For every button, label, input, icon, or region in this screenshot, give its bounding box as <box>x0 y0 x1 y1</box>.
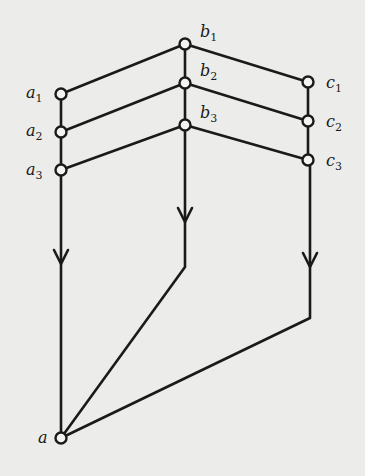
edge-a2-b2 <box>61 83 185 132</box>
edge-b3-c3 <box>185 125 308 160</box>
node-a1 <box>56 89 67 100</box>
middle-flow-line <box>61 125 185 438</box>
label-a2: a2 <box>26 121 43 143</box>
node-b1 <box>180 39 191 50</box>
label-a: a <box>38 428 48 447</box>
label-a1: a1 <box>26 83 43 105</box>
node-a2 <box>56 127 67 138</box>
node-c3 <box>303 155 314 166</box>
edge-a1-b1 <box>61 44 185 94</box>
node-c2 <box>303 116 314 127</box>
label-c1: c1 <box>326 73 342 95</box>
node-a <box>56 433 67 444</box>
label-b2: b2 <box>200 61 217 83</box>
node-b2 <box>180 78 191 89</box>
label-b3: b3 <box>200 103 217 125</box>
label-a3: a3 <box>26 160 43 182</box>
flow-diagram: b1 b2 b3 a1 a2 a3 c1 c2 c3 a <box>0 0 365 476</box>
node-a3 <box>56 165 67 176</box>
label-c2: c2 <box>326 112 342 134</box>
node-c1 <box>303 77 314 88</box>
label-c3: c3 <box>326 151 342 173</box>
edge-a3-b3 <box>61 125 185 170</box>
node-b3 <box>180 120 191 131</box>
label-b1: b1 <box>200 22 217 44</box>
